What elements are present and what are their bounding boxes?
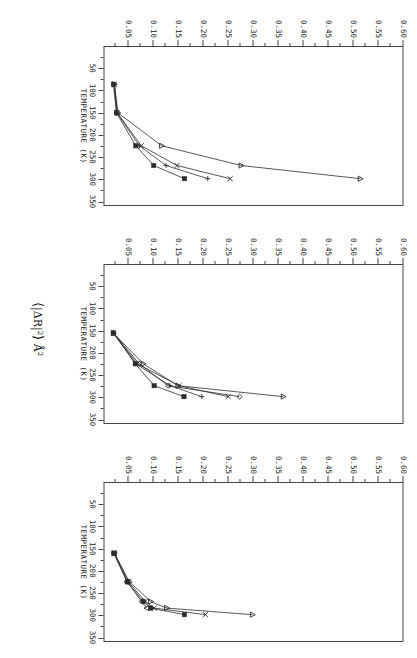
panel-3-y-tick-minor bbox=[265, 479, 266, 482]
panel-3-x-axis-title: TEMPERATURE (K) bbox=[78, 482, 87, 642]
panel-2: 0.600.550.500.450.400.350.300.250.200.15… bbox=[0, 220, 417, 438]
panel-3-x-tick-label: 250 bbox=[87, 586, 96, 600]
panel-2-x-tick bbox=[98, 397, 103, 398]
panel-3-y-tick-label: 0.10 bbox=[149, 456, 158, 474]
panel-1-y-tick bbox=[327, 40, 328, 46]
panel-3-y-tick-minor bbox=[215, 479, 216, 482]
data-point-marker bbox=[227, 176, 232, 181]
panel-1-y-tick-label: 0.50 bbox=[349, 20, 358, 38]
panel-3-y-tick-minor bbox=[140, 479, 141, 482]
panel-3-x-tick-minor bbox=[100, 493, 103, 494]
panel-2-y-tick-label: 0.55 bbox=[374, 238, 383, 256]
panel-1-y-tick bbox=[277, 40, 278, 46]
panel-2-x-tick bbox=[98, 353, 103, 354]
panel-2-y-tick-label: 0.40 bbox=[299, 238, 308, 256]
panel-1-y-tick-label: 0.60 bbox=[399, 20, 408, 38]
panel-3-x-tick-minor bbox=[100, 538, 103, 539]
panel-1-x-tick-minor bbox=[100, 124, 103, 125]
panel-1-y-tick-label: 0.05 bbox=[124, 20, 133, 38]
panel-3-x-tick bbox=[98, 504, 103, 505]
panel-1-y-tick-label: 0.40 bbox=[299, 20, 308, 38]
panel-3-y-tick-minor bbox=[240, 479, 241, 482]
panel-2-x-tick-label: 350 bbox=[87, 413, 96, 427]
panel-2-x-tick-minor bbox=[100, 275, 103, 276]
data-point-marker bbox=[151, 163, 155, 167]
panel-3-y-tick-minor bbox=[290, 479, 291, 482]
panel-3-y-tick bbox=[377, 476, 378, 482]
panel-3-x-tick bbox=[98, 526, 103, 527]
panel-2-y-tick-label: 0.30 bbox=[249, 238, 258, 256]
y-axis-title-body: |ΔR| bbox=[30, 307, 43, 331]
panel-1-y-tick-label: 0.15 bbox=[174, 20, 183, 38]
panel-2-y-tick bbox=[202, 258, 203, 264]
panel-2-y-tick-minor bbox=[290, 261, 291, 264]
panel-1-y-tick-minor bbox=[340, 43, 341, 46]
panel-3-x-tick-label: 200 bbox=[87, 564, 96, 578]
panel-1-y-tick-minor bbox=[240, 43, 241, 46]
panel-3-y-tick bbox=[252, 476, 253, 482]
panel-2-y-tick-label: 0.50 bbox=[349, 238, 358, 256]
panel-3-y-tick-label: 0.05 bbox=[124, 456, 133, 474]
data-point-marker bbox=[111, 331, 115, 335]
panel-1-y-tick-minor bbox=[265, 43, 266, 46]
panel-2-x-tick bbox=[98, 331, 103, 332]
panel-2-plot-frame bbox=[103, 264, 403, 424]
panel-1-y-tick-minor bbox=[290, 43, 291, 46]
panel-2-x-tick-label: 300 bbox=[87, 391, 96, 405]
panel-3-y-tick-minor bbox=[340, 479, 341, 482]
panel-1-x-axis: 50100150200250300350 bbox=[102, 46, 103, 206]
panel-1-x-tick bbox=[98, 68, 103, 69]
panel-1-y-tick bbox=[402, 40, 403, 46]
panel-1-x-tick-label: 200 bbox=[87, 128, 96, 142]
panel-3: 0.600.550.500.450.400.350.300.250.200.15… bbox=[0, 438, 417, 656]
data-point-marker bbox=[182, 176, 186, 180]
panel-1-y-tick-minor bbox=[165, 43, 166, 46]
panel-2-x-tick bbox=[98, 375, 103, 376]
panel-2-y-tick bbox=[252, 258, 253, 264]
panel-3-x-tick-label: 100 bbox=[87, 520, 96, 534]
panel-2-y-tick-label: 0.45 bbox=[324, 238, 333, 256]
panel-1-x-tick-minor bbox=[100, 190, 103, 191]
panel-3-y-tick-minor bbox=[190, 479, 191, 482]
data-point-marker bbox=[205, 176, 210, 181]
panel-1-x-tick-label: 150 bbox=[87, 106, 96, 120]
panel-1-x-tick-minor bbox=[100, 102, 103, 103]
panel-1-x-tick-minor bbox=[100, 146, 103, 147]
rotated-figure-wrapper: 0.600.550.500.450.400.350.300.250.200.15… bbox=[0, 0, 417, 658]
panel-2-x-tick-minor bbox=[100, 364, 103, 365]
panel-2-y-tick bbox=[277, 258, 278, 264]
panel-2-x-tick-minor bbox=[100, 386, 103, 387]
panel-3-y-tick-label: 0.30 bbox=[249, 456, 258, 474]
panel-1-series-layer bbox=[104, 47, 402, 205]
panel-1-y-tick bbox=[127, 40, 128, 46]
panel-3-y-tick bbox=[402, 476, 403, 482]
y-axis-title-unit: Å bbox=[30, 344, 43, 352]
panel-3-y-tick bbox=[177, 476, 178, 482]
panel-2-y-tick-minor bbox=[365, 261, 366, 264]
panel-1-y-tick bbox=[302, 40, 303, 46]
panel-1-x-tick-minor bbox=[100, 79, 103, 80]
panel-1-y-tick bbox=[252, 40, 253, 46]
panel-1-y-tick-label: 0.30 bbox=[249, 20, 258, 38]
panel-3-y-axis: 0.600.550.500.450.400.350.300.250.200.15… bbox=[103, 482, 403, 483]
panel-1-x-tick bbox=[98, 157, 103, 158]
panel-3-x-tick-minor bbox=[100, 582, 103, 583]
panel-2-y-tick bbox=[377, 258, 378, 264]
panel-2-y-tick-label: 0.10 bbox=[149, 238, 158, 256]
panel-3-y-tick bbox=[302, 476, 303, 482]
panel-2-y-tick-label: 0.60 bbox=[399, 238, 408, 256]
panel-3-x-axis: 50100150200250300350 bbox=[102, 482, 103, 642]
panel-3-plot-frame bbox=[103, 482, 403, 642]
panel-1-x-tick bbox=[98, 202, 103, 203]
panel-2-x-axis: 50100150200250300350 bbox=[102, 264, 103, 424]
panel-2-y-tick-minor bbox=[215, 261, 216, 264]
series-line-triangle-series bbox=[114, 553, 252, 614]
panel-1-x-tick bbox=[98, 135, 103, 136]
panel-3-y-tick-label: 0.35 bbox=[274, 456, 283, 474]
panel-2-y-tick-minor bbox=[315, 261, 316, 264]
panel-2-x-tick-label: 100 bbox=[87, 302, 96, 316]
panel-2-x-tick bbox=[98, 286, 103, 287]
panel-2-y-tick bbox=[177, 258, 178, 264]
panel-2-y-tick bbox=[127, 258, 128, 264]
panel-1-y-tick-minor bbox=[390, 43, 391, 46]
